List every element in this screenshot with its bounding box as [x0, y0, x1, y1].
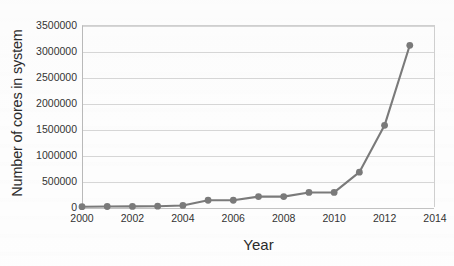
x-tick-label: 2008	[272, 212, 295, 224]
x-tick-label: 2002	[121, 212, 144, 224]
data-point-2013	[406, 42, 413, 49]
x-axis-title: Year	[82, 236, 435, 253]
y-tick-label: 2000000	[0, 97, 77, 109]
series-line-number-of-cores	[82, 45, 410, 206]
data-point-2002	[129, 203, 136, 210]
data-point-2007	[255, 193, 262, 200]
y-tick-label: 3500000	[0, 19, 77, 31]
data-point-2009	[306, 189, 313, 196]
y-tick-label: 500000	[0, 175, 77, 187]
x-tick-label: 2010	[322, 212, 345, 224]
data-point-2008	[280, 193, 287, 200]
data-point-2012	[381, 122, 388, 129]
y-tick-label: 1500000	[0, 123, 77, 135]
data-point-2001	[104, 203, 111, 210]
x-tick-label: 2006	[222, 212, 245, 224]
y-tick-label: 2500000	[0, 71, 77, 83]
data-point-2003	[154, 203, 161, 210]
x-tick-label: 2000	[70, 212, 93, 224]
gridline-0	[83, 208, 434, 209]
x-tick-label: 2012	[373, 212, 396, 224]
line-chart: Number of cores in system Year 050000010…	[0, 0, 454, 266]
y-tick-label: 3000000	[0, 45, 77, 57]
data-point-2006	[230, 197, 237, 204]
x-tick-label: 2014	[423, 212, 446, 224]
series-markers	[79, 42, 414, 210]
data-point-2005	[205, 197, 212, 204]
data-point-2004	[179, 202, 186, 209]
y-tick-label: 0	[0, 201, 77, 213]
data-point-2011	[356, 169, 363, 176]
data-point-2000	[79, 203, 86, 210]
data-series-layer	[82, 25, 435, 207]
y-tick-label: 1000000	[0, 149, 77, 161]
data-point-2010	[331, 189, 338, 196]
x-tick-label: 2004	[171, 212, 194, 224]
